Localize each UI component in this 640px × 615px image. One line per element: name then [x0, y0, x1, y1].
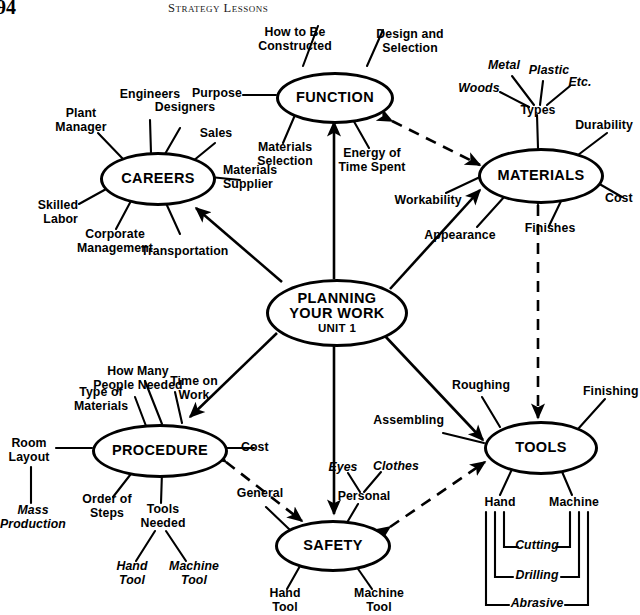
label-order-of-steps: Order of Steps: [76, 493, 138, 521]
label-machine-tool-procedure: Machine Tool: [161, 560, 227, 588]
spoke-materials-types: [537, 115, 538, 148]
spoke-toolsneeded-handtool: [136, 531, 155, 561]
label-sales: Sales: [192, 127, 240, 141]
label-skilled-labor: Skilled Labor: [18, 199, 78, 227]
bracket-hand-abrasive-left: [486, 512, 509, 605]
node-safety[interactable]: SAFETY: [275, 520, 391, 572]
label-energy-of-time-spent: Energy of Time Spent: [335, 147, 409, 175]
node-tools[interactable]: TOOLS: [484, 421, 598, 475]
node-careers[interactable]: CAREERS: [100, 152, 216, 206]
bracket-machine-abrasive-right: [565, 512, 588, 605]
label-metal: Metal: [479, 59, 529, 73]
spoke-careers-plantmanager: [98, 133, 124, 160]
node-safety-label: SAFETY: [303, 538, 363, 553]
spoke-tools-finishing: [578, 399, 605, 429]
center-line-2: YOUR WORK: [289, 306, 384, 321]
label-designers: Designers: [148, 101, 222, 115]
node-planning-your-work[interactable]: PLANNING YOUR WORK UNIT 1: [266, 279, 408, 347]
spoke-tools-roughing: [482, 397, 500, 427]
label-mass-production: Mass Production: [0, 504, 66, 532]
label-type-of-materials: Type of Materials: [66, 386, 136, 414]
label-finishing: Finishing: [583, 385, 640, 399]
label-hand-tool-procedure: Hand Tool: [104, 560, 160, 588]
node-tools-label: TOOLS: [515, 440, 567, 455]
label-workability: Workability: [391, 194, 465, 208]
node-procedure-label: PROCEDURE: [112, 443, 208, 458]
label-cutting: Cutting: [513, 539, 561, 553]
label-abrasive: Abrasive: [505, 597, 569, 611]
label-machine: Machine: [545, 496, 603, 510]
spoke-materials-appearance: [477, 196, 505, 227]
label-tools-needed: Tools Needed: [134, 503, 192, 531]
spoke-materials-durability: [578, 133, 607, 155]
label-roughing: Roughing: [448, 379, 514, 393]
spoke-careers-skilledlabor: [79, 188, 108, 204]
spoke-safety-general: [266, 507, 289, 529]
label-materials-supplier: Materials Supplier: [223, 164, 297, 192]
label-general: General: [229, 487, 291, 501]
label-assembling: Assembling: [372, 414, 444, 428]
spoke-careers-engineers: [150, 120, 151, 153]
page-canvas: 94 Strategy Lessons: [0, 0, 640, 615]
label-how-to-be-constructed: How to Be Constructed: [249, 26, 341, 54]
label-etc: Etc.: [562, 76, 598, 90]
node-function-label: FUNCTION: [296, 90, 374, 105]
spoke-toolsneeded-machinetool: [166, 531, 186, 561]
center-line-1: PLANNING: [298, 291, 377, 306]
label-room-layout: Room Layout: [2, 437, 56, 465]
label-finishes: Finishes: [521, 222, 579, 236]
label-design-and-selection: Design and Selection: [364, 28, 456, 56]
label-machine-tool-safety: Machine Tool: [348, 587, 410, 615]
spoke-function-materialsselection: [283, 115, 295, 143]
spoke-procedure-typeofmaterials: [135, 397, 146, 426]
label-clothes: Clothes: [368, 460, 424, 474]
label-plant-manager: Plant Manager: [49, 107, 113, 135]
node-materials[interactable]: MATERIALS: [478, 148, 604, 204]
label-cost-materials: Cost: [605, 192, 640, 206]
label-time-on-work: Time on Work: [164, 375, 224, 403]
node-procedure[interactable]: PROCEDURE: [92, 424, 228, 478]
center-unit-label: UNIT 1: [318, 322, 356, 335]
label-drilling: Drilling: [508, 569, 566, 583]
label-cost-procedure: Cost: [241, 441, 281, 455]
label-purpose: Purpose: [189, 87, 245, 101]
label-hand-tool-safety: Hand Tool: [258, 587, 312, 615]
spoke-materials-workability: [446, 177, 480, 193]
label-personal: Personal: [333, 490, 395, 504]
node-careers-label: CAREERS: [121, 171, 195, 186]
label-durability: Durability: [570, 119, 638, 133]
label-woods: Woods: [453, 82, 505, 96]
node-materials-label: MATERIALS: [497, 168, 584, 183]
label-eyes: Eyes: [320, 461, 366, 475]
node-function[interactable]: FUNCTION: [276, 72, 394, 124]
spoke-careers-designers: [165, 128, 180, 154]
label-appearance: Appearance: [424, 229, 496, 243]
spoke-careers-corporatemanagement: [116, 199, 132, 229]
label-types: Types: [509, 104, 567, 118]
label-transportation: Transportation: [141, 245, 233, 259]
spoke-types-plastic: [540, 81, 543, 105]
label-hand: Hand: [477, 496, 523, 510]
